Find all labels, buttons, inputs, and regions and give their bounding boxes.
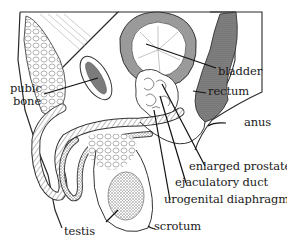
label-rectum: rectum [208,86,249,98]
label-anus: anus [244,117,271,129]
anatomy-diagram: bladder rectum pubic bone anus enlarged … [0,0,287,243]
testis [108,172,144,220]
label-bladder: bladder [218,66,262,78]
label-testis: testis [64,226,95,238]
anus-leader [208,123,226,126]
label-ejaculatory-duct: ejaculatory duct [175,177,268,189]
label-enlarged-prostate: enlarged prostate [189,161,287,173]
label-scrotum: scrotum [154,221,201,233]
label-urogenital-diaphragm: urogenital diaphragm [164,194,287,206]
label-pubic-bone-line2: bone [13,96,41,108]
label-pubic-bone-line1: pubic [10,83,42,95]
